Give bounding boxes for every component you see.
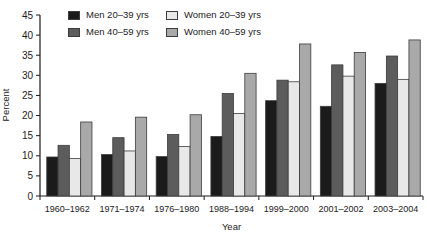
- y-tick-label: 25: [22, 90, 34, 101]
- bar-Women 40–59 yrs: [81, 122, 92, 196]
- y-tick-label: 45: [22, 10, 34, 21]
- y-tick-label: 5: [27, 170, 33, 181]
- bar-Men 40–59 yrs: [386, 56, 397, 196]
- bar-Men 40–59 yrs: [58, 145, 69, 196]
- bar-Women 20–39 yrs: [69, 159, 80, 196]
- legend: Men 20–39 yrs Women 20–39 yrs Men 40–59 …: [68, 10, 261, 37]
- y-tick-label: 40: [22, 30, 34, 41]
- x-category-label: 1960–1962: [45, 204, 90, 214]
- y-tick-label: 20: [22, 110, 34, 121]
- y-tick-label: 35: [22, 50, 34, 61]
- y-tick-label: 10: [22, 150, 34, 161]
- bar-Men 20–39 yrs: [101, 155, 112, 196]
- legend-label: Men 40–59 yrs: [86, 27, 149, 37]
- legend-swatch-icon: [166, 28, 178, 37]
- legend-swatch-icon: [68, 11, 80, 20]
- bar-Men 20–39 yrs: [156, 157, 167, 196]
- bar-Women 20–39 yrs: [398, 79, 409, 196]
- bar-Men 40–59 yrs: [222, 93, 233, 196]
- legend-swatch-icon: [166, 11, 178, 20]
- y-axis-title: Percent: [0, 76, 12, 134]
- x-category-label: 2003–2004: [373, 204, 418, 214]
- y-tick-label: 15: [22, 130, 34, 141]
- x-category-label: 2001–2002: [318, 204, 363, 214]
- bar-Men 20–39 yrs: [266, 101, 277, 196]
- bar-Men 40–59 yrs: [167, 134, 178, 196]
- bar-Women 40–59 yrs: [190, 115, 201, 196]
- legend-label: Women 40–59 yrs: [184, 27, 261, 37]
- bar-Women 20–39 yrs: [288, 82, 299, 196]
- y-tick-label: 30: [22, 70, 34, 81]
- legend-item-women-40-59: Women 40–59 yrs: [166, 27, 261, 37]
- bar-Women 20–39 yrs: [124, 151, 135, 196]
- bar-Women 40–59 yrs: [409, 40, 420, 196]
- bar-Men 20–39 yrs: [211, 136, 222, 196]
- y-tick-label: 0: [27, 191, 33, 202]
- bar-Men 40–59 yrs: [332, 65, 343, 196]
- x-category-label: 1999–2000: [264, 204, 309, 214]
- bar-Men 20–39 yrs: [47, 157, 58, 196]
- bar-Men 20–39 yrs: [320, 106, 331, 196]
- legend-label: Men 20–39 yrs: [86, 10, 149, 20]
- legend-item-men-40-59: Men 40–59 yrs: [68, 27, 166, 37]
- legend-item-men-20-39: Men 20–39 yrs: [68, 10, 166, 20]
- legend-item-women-20-39: Women 20–39 yrs: [166, 10, 261, 20]
- legend-label: Women 20–39 yrs: [184, 10, 261, 20]
- bar-Men 40–59 yrs: [277, 80, 288, 196]
- obesity-trend-figure: 0510152025303540451960–19621971–19741976…: [0, 0, 427, 237]
- bar-Women 20–39 yrs: [179, 147, 190, 196]
- bar-Women 40–59 yrs: [245, 73, 256, 196]
- bar-Women 20–39 yrs: [234, 114, 245, 196]
- bar-Women 40–59 yrs: [135, 117, 146, 196]
- legend-swatch-icon: [68, 28, 80, 37]
- x-category-label: 1976–1980: [154, 204, 199, 214]
- x-category-label: 1971–1974: [100, 204, 145, 214]
- bar-Women 40–59 yrs: [300, 44, 311, 196]
- bar-Women 40–59 yrs: [354, 52, 365, 196]
- bar-Men 40–59 yrs: [113, 138, 124, 196]
- x-axis-title: Year: [40, 221, 423, 232]
- x-category-label: 1988–1994: [209, 204, 254, 214]
- bar-Women 20–39 yrs: [343, 76, 354, 196]
- bar-Men 20–39 yrs: [375, 83, 386, 196]
